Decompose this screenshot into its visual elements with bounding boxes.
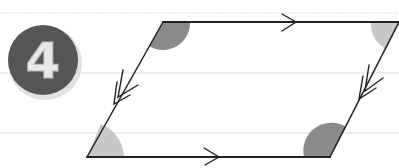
angle-top-right [371,22,399,49]
side-right [330,22,399,157]
parallelogram [87,22,399,157]
angle-bottom-left [87,124,124,157]
side-left [87,22,163,157]
diagram-canvas: 4 [0,0,399,168]
arrow-right-icon [365,65,383,91]
badge-number: 4 [26,32,61,90]
number-badge: 4 [8,25,82,100]
angle-markers [87,22,399,157]
